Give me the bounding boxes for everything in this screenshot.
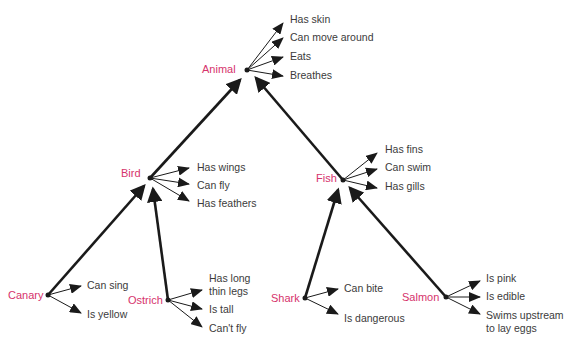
concept-label-animal: Animal: [202, 63, 236, 75]
property-label: Has fins: [385, 143, 423, 155]
concept-label-ostrich: Ostrich: [128, 294, 163, 306]
property-label: Breathes: [290, 69, 332, 81]
concept-label-canary: Canary: [8, 289, 44, 301]
property-label: Has wings: [197, 161, 245, 173]
concept-label-fish: Fish: [316, 172, 337, 184]
property-label: Eats: [290, 50, 311, 62]
node-canary: Canary Can sing Is yellow: [8, 279, 129, 320]
property-label: Can swim: [385, 161, 431, 173]
property-label: Is edible: [486, 290, 525, 302]
node-bird: Bird Has wings Can fly Has feathers: [121, 161, 257, 209]
property-label: Is pink: [486, 272, 517, 284]
property-label: to lay eggs: [486, 322, 537, 334]
property-label: Swims upstream: [486, 309, 564, 321]
edge-fish-animal: [256, 78, 343, 180]
property-label: Is dangerous: [344, 312, 405, 324]
node-shark: Shark Can bite Is dangerous: [271, 282, 405, 324]
property-label: Can sing: [87, 279, 129, 291]
property-label: Has gills: [385, 180, 425, 192]
property-label: Can fly: [197, 179, 230, 191]
property-label: Has long: [209, 272, 251, 284]
concept-label-bird: Bird: [121, 167, 141, 179]
property-label: Has skin: [290, 13, 330, 25]
concept-label-salmon: Salmon: [402, 291, 439, 303]
node-animal: Animal Has skin Can move around Eats Bre…: [202, 13, 374, 81]
node-ostrich: Ostrich Has long thin legs Is tall Can't…: [128, 272, 251, 334]
property-label: Is tall: [209, 303, 234, 315]
property-label: thin legs: [209, 285, 248, 297]
semantic-network-diagram: Animal Has skin Can move around Eats Bre…: [0, 0, 579, 346]
edge-ostrich-bird: [153, 189, 168, 300]
property-label: Has feathers: [197, 197, 257, 209]
edge-shark-fish: [305, 190, 338, 298]
property-label: Is yellow: [87, 308, 128, 320]
node-salmon: Salmon Is pink Is edible Swims upstream …: [402, 272, 564, 334]
property-label: Can bite: [344, 282, 383, 294]
property-label: Can't fly: [209, 322, 247, 334]
property-label: Can move around: [290, 31, 374, 43]
edge-salmon-fish: [350, 188, 446, 297]
concept-label-shark: Shark: [271, 292, 300, 304]
